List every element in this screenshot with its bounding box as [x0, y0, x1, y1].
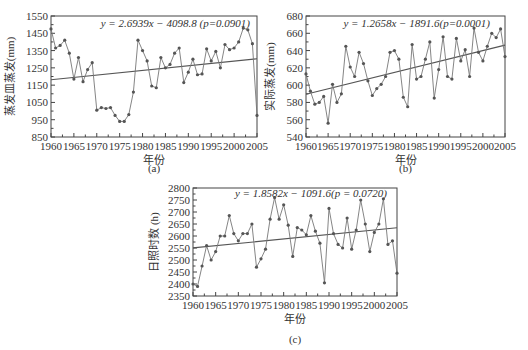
regression-equation: y = 1.2658x − 1891.6(p=0.0001) [342, 17, 490, 30]
data-point [327, 122, 330, 125]
data-point [223, 43, 226, 46]
data-point [200, 264, 203, 267]
data-point [251, 42, 254, 45]
data-point [196, 73, 199, 76]
data-point [205, 244, 208, 247]
data-point [196, 285, 199, 288]
data-point [362, 62, 365, 65]
data-point [210, 258, 213, 261]
data-point [232, 232, 235, 235]
data-point [250, 222, 253, 225]
y-tick-label: 950 [32, 114, 49, 126]
data-point [237, 40, 240, 43]
x-tick-label: 1990 [428, 140, 451, 152]
data-point [309, 90, 312, 93]
data-point [377, 222, 380, 225]
data-point [214, 50, 217, 53]
data-point [141, 49, 144, 52]
data-point [72, 77, 75, 80]
data-point [355, 228, 358, 231]
panel-caption: (c) [289, 333, 302, 346]
y-tick-label: 2550 [168, 242, 191, 254]
data-point [259, 257, 262, 260]
x-tick-label: 1970 [227, 299, 250, 311]
data-point [241, 232, 244, 235]
data-point [155, 86, 158, 89]
y-tick-label: 1450 [26, 27, 49, 39]
data-point [86, 68, 89, 71]
data-point [191, 282, 194, 285]
data-point [368, 250, 371, 253]
x-tick-label: 1960 [40, 140, 63, 152]
y-tick-label: 1250 [26, 62, 49, 74]
x-tick-label: 1965 [63, 140, 86, 152]
x-tick-label: 2005 [386, 299, 409, 311]
y-tick-label: 660 [287, 27, 304, 39]
y-tick-label: 2650 [168, 218, 191, 230]
x-tick-label: 1980 [132, 140, 155, 152]
data-point [380, 83, 383, 86]
chart-b: 5405605806006206406606801960196519701975… [263, 10, 517, 175]
data-point [168, 63, 171, 66]
x-tick-label: 1965 [317, 140, 340, 152]
data-point [340, 92, 343, 95]
data-point [415, 77, 418, 80]
data-point [191, 58, 194, 61]
data-point [305, 233, 308, 236]
x-tick-label: 1960 [295, 140, 318, 152]
data-point [282, 203, 285, 206]
data-point [437, 68, 440, 71]
x-tick-label: 1995 [341, 299, 364, 311]
data-point [223, 234, 226, 237]
data-point [395, 272, 398, 275]
data-point [388, 51, 391, 54]
x-tick-label: 2005 [494, 140, 517, 152]
data-point [391, 239, 394, 242]
data-point [104, 107, 107, 110]
data-point [314, 230, 317, 233]
data-point [268, 218, 271, 221]
data-point [332, 232, 335, 235]
x-tick-label: 1995 [200, 140, 223, 152]
chart-a: 8509501050115012501350145015501960196519… [3, 10, 269, 175]
data-point [123, 120, 126, 123]
data-point [136, 39, 139, 42]
data-point [146, 59, 149, 62]
data-point [205, 47, 208, 50]
x-tick-label: 1970 [339, 140, 362, 152]
x-tick-label: 1990 [177, 140, 200, 152]
x-tick-label: 1975 [361, 140, 384, 152]
data-point [375, 87, 378, 90]
data-point [255, 266, 258, 269]
data-point [173, 52, 176, 55]
regression-equation: y = 2.6939x − 4098.8 (p=0.0901) [100, 17, 251, 30]
data-point [411, 43, 414, 46]
y-tick-label: 2750 [168, 194, 191, 206]
x-tick-label: 1980 [383, 140, 406, 152]
y-tick-label: 560 [287, 114, 304, 126]
x-tick-label: 1975 [250, 299, 273, 311]
data-line [193, 198, 397, 287]
data-point [68, 52, 71, 55]
data-point [214, 250, 217, 253]
trend-line [306, 45, 505, 94]
y-tick-label: 1050 [26, 96, 49, 108]
data-point [264, 248, 267, 251]
data-point [182, 81, 185, 84]
y-tick-label: 2450 [168, 266, 191, 278]
data-point [313, 103, 316, 106]
x-tick-label: 1970 [86, 140, 109, 152]
x-tick-label: 1960 [182, 299, 205, 311]
y-axis-label: 蒸发皿蒸发(mm) [3, 36, 17, 116]
data-point [406, 105, 409, 108]
data-point [341, 246, 344, 249]
data-point [228, 48, 231, 51]
data-point [296, 226, 299, 229]
data-point [219, 66, 222, 69]
data-point [486, 45, 489, 48]
data-point [349, 65, 352, 68]
y-tick-label: 2400 [168, 278, 191, 290]
data-point [346, 216, 349, 219]
x-tick-label: 1985 [154, 140, 177, 152]
data-point [459, 59, 462, 62]
